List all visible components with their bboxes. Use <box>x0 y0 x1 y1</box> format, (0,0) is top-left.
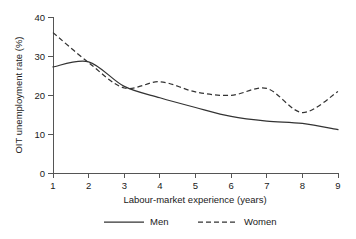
x-tick-label: 4 <box>157 180 162 191</box>
y-tick-label: 30 <box>34 51 45 62</box>
x-tick-label: 2 <box>86 180 91 191</box>
x-tick-label: 3 <box>122 180 127 191</box>
line-chart: 0 10 20 30 40 1 2 3 4 5 6 7 <box>0 0 356 239</box>
y-tick-label: 40 <box>34 12 45 23</box>
x-tick-label: 9 <box>335 180 340 191</box>
chart-figure: 0 10 20 30 40 1 2 3 4 5 6 7 <box>0 0 356 239</box>
y-tick-label: 0 <box>40 168 45 179</box>
x-tick-label: 8 <box>300 180 305 191</box>
y-tick-label: 10 <box>34 129 45 140</box>
x-tick-label: 1 <box>50 180 55 191</box>
x-tick-label: 5 <box>193 180 198 191</box>
legend-label-women: Women <box>244 216 277 227</box>
legend-label-men: Men <box>150 216 168 227</box>
x-tick-label: 6 <box>228 180 233 191</box>
y-axis-title: OIT unemployment rate (%) <box>13 36 24 153</box>
x-axis-title: Labour-market experience (years) <box>123 194 266 205</box>
y-tick-label: 20 <box>34 90 45 101</box>
x-tick-label: 7 <box>264 180 269 191</box>
